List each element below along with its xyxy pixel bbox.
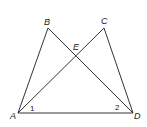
geometry-figure: B C E A D 1 2 [0, 0, 147, 127]
point-label-b: B [44, 17, 50, 27]
point-label-a: A [9, 111, 16, 121]
angle-label-1: 1 [30, 104, 35, 113]
point-label-e: E [73, 42, 80, 52]
point-label-c: C [101, 16, 108, 26]
segment-ab [18, 28, 48, 113]
point-label-d: D [134, 111, 141, 121]
angle-label-2: 2 [115, 103, 120, 112]
segment-cd [104, 28, 133, 113]
